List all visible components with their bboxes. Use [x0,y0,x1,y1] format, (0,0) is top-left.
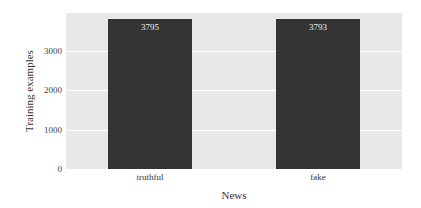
x-tick-label: truthful [137,172,164,182]
bar-value-label: 3795 [108,22,192,32]
y-tick-label: 2000 [44,85,62,95]
bar-chart: Training examples 0100020003000 37953793… [0,0,421,208]
x-axis-label: News [221,189,246,201]
bar-value-label: 3793 [276,22,360,32]
y-tick-label: 3000 [44,46,62,56]
bar-fake: 3793 [276,19,360,169]
y-tick-label: 1000 [44,125,62,135]
y-tick-label: 0 [58,164,63,174]
y-axis-label: Training examples [23,50,35,132]
x-tick-label: fake [310,172,326,182]
plot-area: 37953793 [66,13,402,169]
bar-truthful: 3795 [108,19,192,169]
